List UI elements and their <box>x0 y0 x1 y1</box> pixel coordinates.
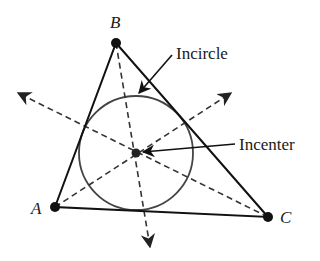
vertex-a-label: A <box>30 199 42 218</box>
incenter-point <box>132 149 141 158</box>
incenter-diagram: A B C Incircle Incenter <box>0 0 320 261</box>
triangle-abc <box>55 43 268 217</box>
vertex-b-label: B <box>110 13 121 32</box>
bisector-from-c <box>18 93 268 217</box>
incenter-callout-arrow <box>143 144 235 152</box>
vertex-c-point <box>263 212 273 222</box>
vertex-c-label: C <box>280 208 292 227</box>
vertex-a-point <box>50 202 60 212</box>
vertex-b-point <box>111 38 121 48</box>
incircle-label: Incircle <box>176 44 228 63</box>
bisector-from-a <box>55 93 231 207</box>
incenter-label: Incenter <box>239 135 295 154</box>
